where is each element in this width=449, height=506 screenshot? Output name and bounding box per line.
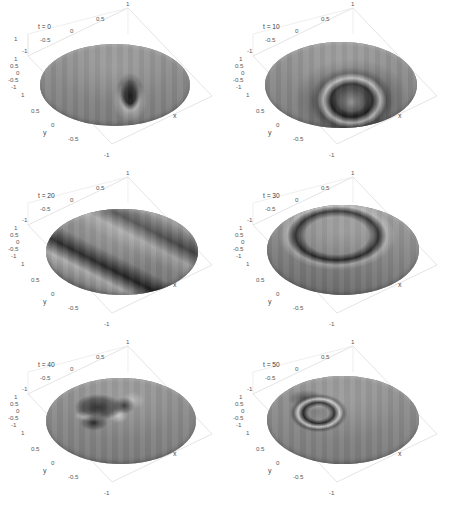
y-tick: 0.5 [31, 108, 39, 114]
y-tick: 0 [276, 460, 279, 466]
y-tick: 1 [246, 261, 249, 267]
x-tick: -0.5 [40, 375, 50, 381]
x-axis-label: x [398, 281, 402, 288]
x-tick: 1 [351, 339, 354, 345]
panel-title: t = 50 [263, 362, 280, 369]
x-tick: 0 [295, 366, 298, 372]
x-tick: 0.5 [321, 354, 329, 360]
z-tick: -1 [11, 422, 16, 428]
y-tick: 0 [51, 460, 54, 466]
subplot-panel: t = 20 1 0.5 0 -0.5 -1 1 0.5 0 -0.5 -1 1… [0, 169, 224, 337]
y-tick: 0.5 [256, 108, 264, 114]
z-tick: -1 [236, 422, 241, 428]
x-axis-label: x [398, 112, 402, 119]
x-tick: 1 [126, 170, 129, 176]
y-tick: 1 [21, 92, 24, 98]
z-tick: -1 [236, 253, 241, 259]
x-axis-label: x [398, 450, 402, 457]
x-tick: 0.5 [96, 354, 104, 360]
z-tick: -1 [11, 84, 16, 90]
x-tick: -1 [22, 48, 27, 54]
surface-disk [40, 44, 190, 126]
x-tick: 0.5 [96, 185, 104, 191]
y-tick: 1 [21, 430, 24, 436]
plot-stage: t = 10 1 0.5 0 -0.5 -1 1 0.5 0 -0.5 -1 1… [225, 0, 449, 168]
panel-title: t = 10 [263, 24, 280, 31]
x-axis-label: x [173, 450, 177, 457]
subplot-panel: t = 50 1 0.5 0 -0.5 -1 1 0.5 0 -0.5 -1 1… [225, 338, 449, 506]
y-tick: -0.5 [293, 305, 303, 311]
y-tick: 0 [51, 291, 54, 297]
z-tick: 1 [14, 36, 17, 42]
x-tick: 0 [295, 197, 298, 203]
surface-edge [40, 44, 190, 126]
x-tick: -1 [247, 386, 252, 392]
x-tick: 0.5 [96, 16, 104, 22]
y-axis-label: y [43, 129, 47, 136]
x-tick: -0.5 [265, 375, 275, 381]
y-axis-label: y [43, 298, 47, 305]
y-tick: 1 [246, 92, 249, 98]
subplot-panel: t = 40 1 0.5 0 -0.5 -1 1 0.5 0 -0.5 -1 1… [0, 338, 224, 506]
x-tick: 1 [126, 339, 129, 345]
panel-title: t = 30 [263, 193, 280, 200]
x-tick: -0.5 [40, 37, 50, 43]
surface-edge [267, 205, 419, 295]
x-tick: 0.5 [321, 16, 329, 22]
x-tick: -1 [22, 217, 27, 223]
x-axis-label: x [173, 281, 177, 288]
y-tick: -1 [104, 152, 109, 158]
y-tick: 1 [21, 261, 24, 267]
plot-stage: t = 50 1 0.5 0 -0.5 -1 1 0.5 0 -0.5 -1 1… [225, 338, 449, 506]
y-axis-label: y [268, 129, 272, 136]
z-tick: -1 [11, 253, 16, 259]
y-tick: 0 [51, 122, 54, 128]
x-tick: -0.5 [40, 206, 50, 212]
plot-stage: t = 30 1 0.5 0 -0.5 -1 1 0.5 0 -0.5 -1 1… [225, 169, 449, 337]
x-tick: -1 [247, 217, 252, 223]
y-tick: -1 [104, 321, 109, 327]
x-tick: -0.5 [265, 206, 275, 212]
panel-title: t = 0 [38, 24, 51, 31]
x-tick: 0 [70, 197, 73, 203]
y-tick: -1 [329, 321, 334, 327]
y-axis-label: y [268, 298, 272, 305]
z-tick: -1 [236, 84, 241, 90]
x-tick: 0 [70, 28, 73, 34]
subplot-panel: t = 10 1 0.5 0 -0.5 -1 1 0.5 0 -0.5 -1 1… [225, 0, 449, 168]
x-tick: -1 [22, 386, 27, 392]
surface-disk [267, 205, 419, 295]
x-tick: -0.5 [265, 37, 275, 43]
subplot-panel: t = 0 1 1 0.5 0 -0.5 -1 1 0.5 0 -0.5 -1 … [0, 0, 224, 168]
x-tick: 1 [126, 1, 129, 7]
x-axis-label: x [173, 112, 177, 119]
surface-disk [265, 42, 417, 128]
surface-disk [267, 376, 419, 464]
y-tick: 0.5 [31, 446, 39, 452]
figure-canvas: t = 0 1 1 0.5 0 -0.5 -1 1 0.5 0 -0.5 -1 … [0, 0, 449, 506]
plot-stage: t = 20 1 0.5 0 -0.5 -1 1 0.5 0 -0.5 -1 1… [0, 169, 224, 337]
panel-title: t = 40 [38, 362, 55, 369]
x-tick: 0 [295, 28, 298, 34]
x-tick: 1 [351, 170, 354, 176]
y-tick: -0.5 [68, 305, 78, 311]
y-tick: 1 [246, 430, 249, 436]
x-tick: 0.5 [321, 185, 329, 191]
y-tick: 0 [276, 122, 279, 128]
y-tick: -0.5 [68, 474, 78, 480]
plot-stage: t = 0 1 1 0.5 0 -0.5 -1 1 0.5 0 -0.5 -1 … [0, 0, 224, 168]
y-axis-label: y [43, 467, 47, 474]
subplot-panel: t = 30 1 0.5 0 -0.5 -1 1 0.5 0 -0.5 -1 1… [225, 169, 449, 337]
y-tick: -0.5 [293, 474, 303, 480]
y-tick: -0.5 [293, 136, 303, 142]
y-tick: 0.5 [256, 446, 264, 452]
y-tick: 0 [276, 291, 279, 297]
y-tick: -1 [329, 490, 334, 496]
y-tick: -0.5 [68, 136, 78, 142]
plot-stage: t = 40 1 0.5 0 -0.5 -1 1 0.5 0 -0.5 -1 1… [0, 338, 224, 506]
x-tick: 1 [351, 1, 354, 7]
y-tick: -1 [329, 152, 334, 158]
x-tick: -1 [247, 48, 252, 54]
surface-edge [265, 42, 417, 128]
y-tick: 0.5 [256, 277, 264, 283]
